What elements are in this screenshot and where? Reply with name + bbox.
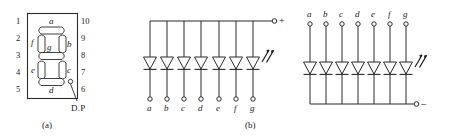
panel-b-terminal-label-g: g <box>250 104 255 113</box>
panel-b-terminal-label-a: a <box>147 104 152 113</box>
panel-b-terminal-label-e: e <box>216 104 220 113</box>
panel-b-terminal-ring-c <box>182 97 186 101</box>
panel-c-terminal-label-a: a <box>307 10 312 19</box>
panel-b-led-a-triangle <box>144 57 157 69</box>
pin-label-right-7: 7 <box>81 67 85 77</box>
pin-label-left-4: 4 <box>16 67 20 77</box>
segment-a-shape <box>39 27 65 34</box>
panel-c-terminal-label-e: e <box>371 10 375 19</box>
panel-b-terminal-ring-b <box>165 97 169 101</box>
panel-b-led-b-triangle <box>161 57 174 69</box>
pin-label-left-1: 1 <box>16 16 20 26</box>
panel-c-led-g-triangle <box>400 62 413 74</box>
decimal-point-label: D.P <box>71 103 85 113</box>
panel-c-light-emission-icon <box>415 55 427 68</box>
panel-c-terminal-ring-f <box>388 22 392 26</box>
panel-c-led-b-triangle <box>320 62 333 74</box>
panel-c-led-a-triangle <box>304 62 317 74</box>
segment-label-f: f <box>31 38 34 47</box>
panel-c-minus-sign: – <box>421 98 426 109</box>
pin-label-right-8: 8 <box>81 50 85 60</box>
panel-b-plus-sign: + <box>279 15 285 26</box>
panel-c-terminal-ring-g <box>404 22 408 26</box>
panel-b-terminal-label-c: c <box>181 104 185 113</box>
segment-label-e: e <box>31 66 35 75</box>
panel-b-plus-terminal-ring <box>272 19 277 24</box>
panel-b-led-e-triangle <box>213 57 226 69</box>
panel-c-led-e-triangle <box>368 62 381 74</box>
segment-label-g: g <box>47 43 52 52</box>
panel-c-terminal-label-d: d <box>355 10 360 19</box>
panel-a-caption: (a) <box>42 120 52 130</box>
segment-c-shape <box>59 61 66 79</box>
segment-b-shape <box>59 35 66 53</box>
panel-c-terminal-label-c: c <box>339 10 343 19</box>
segment-label-b: b <box>67 40 72 49</box>
panel-b-led-c-triangle <box>178 57 191 69</box>
panel-c-drawing <box>304 22 427 107</box>
pin-label-right-6: 6 <box>81 84 85 94</box>
pin-label-left-3: 3 <box>16 50 20 60</box>
panel-c-terminal-ring-b <box>324 22 328 26</box>
pin-label-right-10: 10 <box>81 16 90 26</box>
panel-c-minus-terminal-ring <box>414 102 419 107</box>
segment-f-shape <box>38 35 45 53</box>
panel-b-terminal-ring-g <box>251 97 255 101</box>
segment-g-shape <box>39 53 65 60</box>
panel-b-terminal-ring-f <box>234 97 238 101</box>
panel-c-led-f-triangle <box>384 62 397 74</box>
panel-b-led-g-triangle <box>247 57 260 69</box>
segment-label-c: c <box>67 66 71 75</box>
panel-c-terminal-label-b: b <box>323 10 328 19</box>
panel-c-terminal-ring-a <box>308 22 312 26</box>
panel-c-led-c-triangle <box>336 62 349 74</box>
panel-b-terminal-ring-e <box>217 97 221 101</box>
panel-b-drawing <box>144 19 277 102</box>
decimal-point-dot <box>68 79 72 83</box>
panel-b-terminal-ring-a <box>148 97 152 101</box>
panel-b-led-d-triangle <box>195 57 208 69</box>
segment-label-a: a <box>49 17 54 26</box>
panel-b-terminal-label-b: b <box>164 104 169 113</box>
panel-b-terminal-label-d: d <box>198 104 203 113</box>
panel-c-terminal-label-f: f <box>388 10 391 19</box>
figure-seven-segment-display: 1 2 3 4 5 10 9 8 7 6 a b c d e f g D.P (… <box>0 0 449 140</box>
panel-c-terminal-ring-c <box>340 22 344 26</box>
panel-b-light-emission-icon <box>262 50 274 63</box>
panel-c-terminal-ring-e <box>372 22 376 26</box>
segment-label-d: d <box>49 86 54 95</box>
pin-label-left-2: 2 <box>16 33 20 43</box>
panel-b-caption: (b) <box>245 120 256 130</box>
panel-b-led-f-triangle <box>230 57 243 69</box>
panel-b-terminal-label-f: f <box>234 104 237 113</box>
pin-label-left-5: 5 <box>16 84 20 94</box>
pin-label-right-9: 9 <box>81 33 85 43</box>
panel-c-led-d-triangle <box>352 62 365 74</box>
panel-c-terminal-label-g: g <box>403 10 408 19</box>
segment-e-shape <box>38 61 45 79</box>
panel-c-terminal-ring-d <box>356 22 360 26</box>
panel-b-terminal-ring-d <box>199 97 203 101</box>
